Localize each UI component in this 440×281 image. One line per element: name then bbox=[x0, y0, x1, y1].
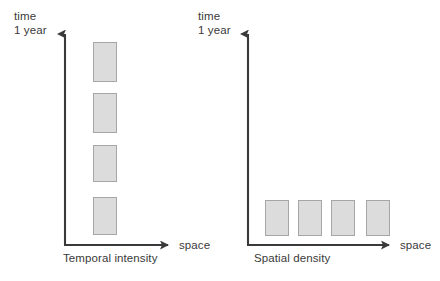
data-block bbox=[331, 200, 355, 236]
panel-caption-spatial-density: Spatial density bbox=[254, 252, 330, 264]
data-block bbox=[366, 200, 390, 236]
data-block bbox=[93, 145, 117, 182]
data-block bbox=[93, 93, 117, 133]
panel-temporal-intensity: time 1 year space Temporal intensity bbox=[0, 0, 220, 281]
diagram-canvas: time 1 year space Temporal intensity tim… bbox=[0, 0, 440, 281]
y-axis-title-right: time bbox=[198, 9, 220, 23]
data-block bbox=[265, 200, 289, 236]
data-block bbox=[93, 197, 117, 235]
y-axis-max-label-left: 1 year bbox=[14, 23, 47, 37]
panel-spatial-density: time 1 year space Spatial density bbox=[220, 0, 440, 281]
data-block bbox=[298, 200, 322, 236]
y-axis-title-left: time bbox=[14, 9, 36, 23]
y-axis-max-label-right: 1 year bbox=[198, 23, 231, 37]
panel-caption-temporal-intensity: Temporal intensity bbox=[63, 252, 157, 264]
data-block bbox=[93, 42, 117, 82]
x-axis-title-right: space bbox=[400, 239, 431, 251]
x-axis-title-left: space bbox=[179, 239, 210, 251]
